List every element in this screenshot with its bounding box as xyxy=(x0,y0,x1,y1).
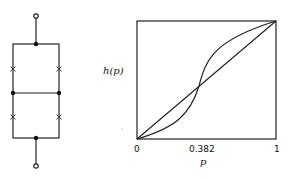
circuit-nodes xyxy=(11,42,61,140)
x-tick-1: 1 xyxy=(274,144,280,154)
x-axis-label: p xyxy=(200,157,206,167)
bottom-terminal xyxy=(34,164,38,168)
x-tick-0382: 0.382 xyxy=(189,144,215,154)
y-axis-label: h(p) xyxy=(103,66,124,76)
figure xyxy=(0,0,288,179)
diagonal-line xyxy=(137,21,276,139)
plot xyxy=(137,21,276,139)
stray-dot xyxy=(121,128,122,129)
x-tick-0: 0 xyxy=(134,144,140,154)
top-terminal xyxy=(34,14,38,18)
bridge-circuit xyxy=(13,14,59,168)
